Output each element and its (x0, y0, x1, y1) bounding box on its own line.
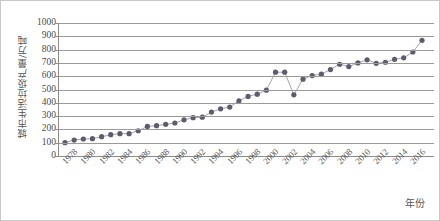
gridline-400 (59, 103, 434, 104)
gridline-700 (59, 63, 434, 64)
data-point (392, 57, 397, 62)
data-point (282, 70, 287, 75)
data-point (401, 55, 406, 60)
y-tick-mark-500 (55, 90, 59, 91)
data-point (300, 77, 305, 82)
y-tick-label-400: 400 (28, 98, 56, 108)
gridline-1000 (59, 23, 434, 24)
gridline-300 (59, 116, 434, 117)
data-point (328, 67, 333, 72)
y-tick-mark-600 (55, 76, 59, 77)
y-axis-tick-labels: 10009008007006005004003002001000 (28, 17, 56, 160)
data-point (172, 120, 177, 125)
data-point (99, 134, 104, 139)
data-point (346, 64, 351, 69)
data-point (126, 131, 131, 136)
y-tick-label-300: 300 (28, 111, 56, 121)
gridline-200 (59, 129, 434, 130)
y-tick-label-100: 100 (28, 138, 56, 148)
data-point (273, 70, 278, 75)
gridline-600 (59, 76, 434, 77)
chart-figure: 城市生活垃圾产量/万吨 1000900800700600500400300200… (0, 0, 440, 221)
y-tick-mark-800 (55, 50, 59, 51)
y-tick-mark-700 (55, 63, 59, 64)
y-tick-mark-300 (55, 116, 59, 117)
data-point (163, 122, 168, 127)
y-tick-mark-400 (55, 103, 59, 104)
y-tick-mark-1000 (55, 23, 59, 24)
gridline-900 (59, 36, 434, 37)
data-point (117, 131, 122, 136)
data-point (181, 117, 186, 122)
data-point (218, 106, 223, 111)
y-tick-label-700: 700 (28, 58, 56, 68)
y-tick-mark-900 (55, 36, 59, 37)
y-tick-label-200: 200 (28, 125, 56, 135)
data-point (245, 94, 250, 99)
data-point (227, 104, 232, 109)
data-point (209, 110, 214, 115)
data-point (145, 124, 150, 129)
y-tick-mark-100 (55, 143, 59, 144)
x-axis-tick-labels: 1978198019821984198619881990199219941996… (58, 157, 433, 197)
data-point (90, 136, 95, 141)
gridline-100 (59, 143, 434, 144)
data-point (154, 123, 159, 128)
data-point (108, 132, 113, 137)
data-point (364, 57, 369, 62)
y-tick-label-600: 600 (28, 71, 56, 81)
x-axis-title: 年份 (405, 195, 425, 210)
y-tick-label-500: 500 (28, 85, 56, 95)
y-tick-label-800: 800 (28, 45, 56, 55)
data-point (81, 136, 86, 141)
y-tick-mark-200 (55, 129, 59, 130)
data-point (291, 92, 296, 97)
data-point (255, 92, 260, 97)
y-tick-label-900: 900 (28, 32, 56, 42)
gridline-800 (59, 50, 434, 51)
plot-area (58, 23, 434, 156)
data-point (419, 38, 424, 43)
series-line (65, 40, 422, 142)
y-tick-label-0: 0 (28, 151, 56, 161)
gridline-500 (59, 90, 434, 91)
y-tick-label-1000: 1000 (28, 18, 56, 28)
